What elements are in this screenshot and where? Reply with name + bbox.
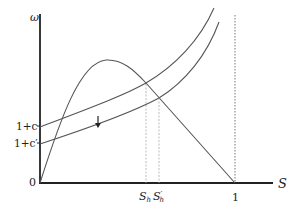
diagram: ω S 0 1+c 1+c′ 1 Sh S′h [0,0,297,212]
y-tick-1-plus-c-prime: 1+c′ [14,137,38,149]
s-h-prime-label: S′h [153,189,164,204]
x-axis-label: S [278,176,287,191]
origin-label: 0 [29,176,36,189]
y-tick-1-plus-c: 1+c [16,120,37,132]
s-h-label: Sh [139,190,151,204]
x-tick-1: 1 [232,191,239,204]
lower-cost-curve [40,22,219,144]
down-arrow-icon [95,116,101,128]
y-axis-label: ω [30,11,39,24]
hump-curve [40,60,235,183]
